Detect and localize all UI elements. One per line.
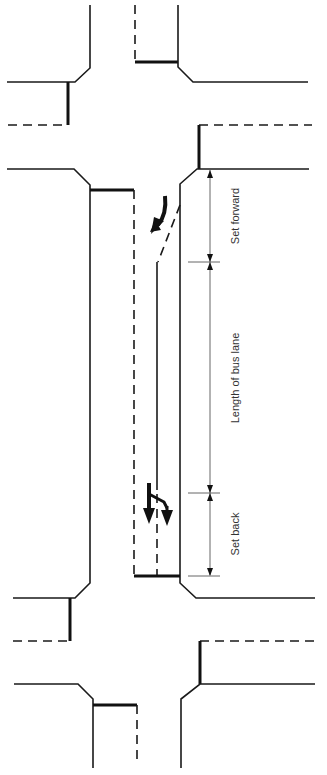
top-right-curb — [178, 5, 308, 82]
dimension-annotations: Set forward Length of bus lane Set back — [188, 170, 241, 576]
arrowhead-icon — [207, 568, 213, 576]
bus-lane-diagram: Set forward Length of bus lane Set back — [0, 0, 327, 775]
top-junction — [7, 5, 315, 598]
mid-left-curb — [7, 169, 90, 598]
arrowhead-icon — [207, 485, 213, 493]
bottom-left-curb — [14, 684, 93, 768]
bus-lane-taper-start — [158, 205, 180, 262]
top-left-curb — [7, 5, 90, 82]
link-road — [90, 190, 180, 576]
arrowhead-icon — [207, 262, 213, 270]
arrowhead-icon — [207, 254, 213, 262]
label-length-of-bus-lane: Length of bus lane — [229, 333, 241, 424]
mid-right-upper-curb — [180, 169, 315, 598]
arrowhead-icon — [207, 493, 213, 501]
bottom-junction — [13, 598, 315, 768]
label-set-back: Set back — [229, 512, 241, 555]
split-arrow-icon — [143, 483, 173, 526]
label-set-forward: Set forward — [229, 188, 241, 244]
bottom-right-curb — [181, 684, 315, 768]
merge-arrow-icon — [150, 196, 165, 234]
arrowhead-icon — [207, 170, 213, 178]
